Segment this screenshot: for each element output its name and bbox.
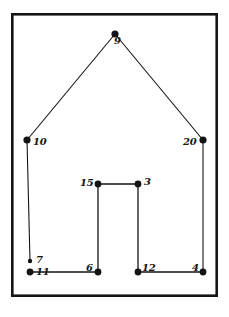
vertex-label-12: 12 xyxy=(142,263,156,273)
vertex-label-10: 10 xyxy=(33,137,47,147)
vertex-label-4: 4 xyxy=(192,263,199,273)
vertex-dot-4[interactable] xyxy=(200,269,207,276)
vertex-label-15: 15 xyxy=(80,178,94,188)
vertex-dot-10[interactable] xyxy=(23,136,30,143)
diagram-canvas: 910201537116124 xyxy=(0,0,229,317)
vertex-dot-12[interactable] xyxy=(135,269,142,276)
vertex-dot-3[interactable] xyxy=(135,181,142,188)
vertex-label-6: 6 xyxy=(86,263,93,273)
vertex-dot-11[interactable] xyxy=(27,269,34,276)
roof-left-edge xyxy=(27,34,115,140)
vertex-label-3: 3 xyxy=(144,177,151,187)
vertex-dot-6[interactable] xyxy=(95,269,102,276)
vertex-label-20: 20 xyxy=(183,137,197,147)
vertex-dot-7[interactable] xyxy=(28,259,32,263)
vertex-dot-15[interactable] xyxy=(95,181,102,188)
vertex-label-9: 9 xyxy=(114,36,121,46)
vertex-label-7: 7 xyxy=(36,255,43,265)
roof-right-edge xyxy=(115,34,203,140)
wall-left-edge xyxy=(27,140,30,261)
vertex-label-11: 11 xyxy=(36,267,50,277)
vertex-dot-20[interactable] xyxy=(199,136,206,143)
